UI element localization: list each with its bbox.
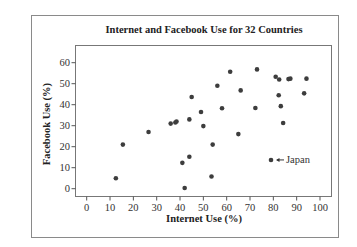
x-tick-label: 80	[268, 202, 279, 213]
y-tick-label: 0	[65, 183, 70, 194]
data-point	[209, 174, 214, 179]
y-axis-label: Facebook Use (%)	[41, 82, 53, 165]
x-tick-label: 70	[245, 202, 256, 213]
x-tick-label: 50	[198, 202, 209, 213]
data-point	[279, 104, 284, 109]
data-point	[238, 88, 243, 93]
data-point	[168, 121, 173, 126]
data-point	[174, 119, 179, 124]
data-point	[276, 93, 281, 98]
x-tick-label: 20	[128, 202, 139, 213]
y-tick-label: 30	[60, 120, 71, 131]
data-point	[199, 110, 204, 115]
data-point	[187, 154, 192, 159]
x-axis-label: Internet Use (%)	[166, 213, 242, 225]
scatter-chart: Internet and Facebook Use for 32 Countri…	[0, 0, 357, 247]
data-point	[121, 142, 126, 147]
y-tick-label: 10	[60, 162, 71, 173]
y-tick-label: 40	[60, 99, 71, 110]
data-point	[302, 91, 307, 96]
annotation-japan: Japan	[286, 154, 311, 165]
data-point	[182, 186, 187, 191]
x-tick-label: 30	[151, 202, 162, 213]
data-point	[201, 124, 206, 129]
data-point	[187, 117, 192, 122]
data-point	[210, 142, 215, 147]
data-point	[189, 95, 194, 100]
data-point	[220, 106, 225, 111]
data-point	[281, 121, 286, 126]
x-tick-label: 60	[221, 202, 232, 213]
data-point	[253, 106, 258, 111]
x-tick-label: 0	[84, 202, 89, 213]
data-point	[228, 69, 233, 74]
data-point	[288, 76, 293, 81]
data-point	[304, 76, 309, 81]
x-tick-label: 100	[312, 202, 328, 213]
chart-title: Internet and Facebook Use for 32 Countri…	[106, 24, 303, 35]
x-tick-label: 10	[105, 202, 116, 213]
x-tick-label: 40	[175, 202, 186, 213]
data-point	[269, 158, 274, 163]
data-point	[146, 130, 151, 135]
data-point	[114, 176, 119, 181]
y-tick-label: 50	[60, 78, 71, 89]
y-tick-label: 60	[60, 57, 71, 68]
data-point	[180, 161, 185, 166]
plot-area	[76, 46, 332, 197]
data-point	[255, 67, 260, 72]
y-tick-label: 20	[60, 141, 71, 152]
data-point	[215, 84, 220, 89]
x-tick-label: 90	[291, 202, 302, 213]
data-point	[277, 77, 282, 82]
data-point	[236, 132, 241, 137]
